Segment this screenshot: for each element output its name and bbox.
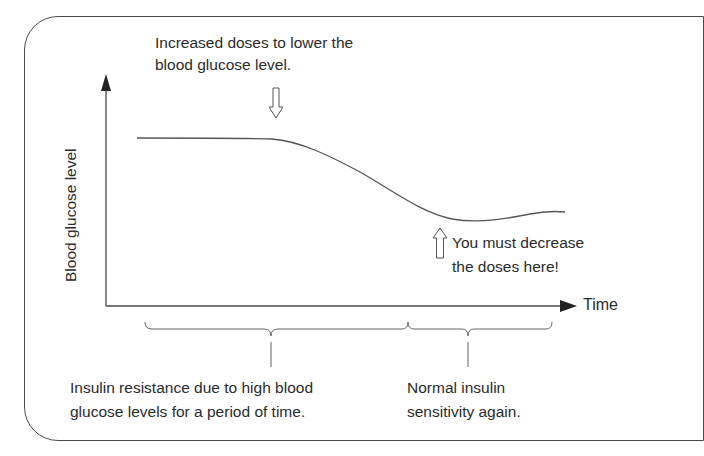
hollow-down-arrow-icon [269, 88, 283, 118]
decrease-doses-annotation-line1: You must decrease [452, 233, 584, 253]
x-axis [106, 300, 577, 312]
phase-insulin-resistance-line1: Insulin resistance due to high blood [70, 378, 313, 398]
phase-insulin-resistance-line2: glucose levels for a period of time. [70, 402, 305, 422]
glucose-curve [137, 138, 565, 221]
x-axis-label: Time [583, 295, 618, 315]
decrease-doses-annotation-line2: the doses here! [452, 257, 559, 277]
phase-normal-sensitivity-line1: Normal insulin [407, 378, 505, 398]
increase-doses-annotation-line1: Increased doses to lower the [155, 33, 353, 53]
phase-normal-sensitivity-line2: sensitivity again. [407, 402, 521, 422]
y-axis-label: Blood glucose level [62, 148, 80, 282]
y-axis [101, 74, 111, 306]
increase-doses-annotation-line2: blood glucose level. [155, 55, 291, 75]
phase-brace-normal-sensitivity [408, 322, 552, 367]
hollow-up-arrow-icon [433, 228, 447, 258]
phase-brace-insulin-resistance [145, 322, 408, 367]
